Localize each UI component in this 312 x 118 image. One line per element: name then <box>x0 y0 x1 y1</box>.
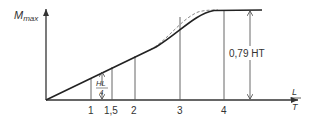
hl4-denominator: 4 <box>100 89 104 96</box>
tick-label-4: 4 <box>221 105 227 116</box>
diagram-canvas: Mmax 1 1,5 2 3 4 HL 4 0,79 HT L T <box>0 0 312 118</box>
tick-label-1-5: 1,5 <box>104 105 118 116</box>
plateau-value-label: 0,79 HT <box>229 48 265 59</box>
y-axis-label: Mmax <box>14 9 39 23</box>
x-axis-label-denominator: T <box>292 102 299 112</box>
x-axis-label-numerator: L <box>292 87 297 97</box>
tick-label-1: 1 <box>88 105 94 116</box>
hl4-numerator: HL <box>96 79 106 88</box>
tick-label-2: 2 <box>131 105 137 116</box>
labels-layer: Mmax 1 1,5 2 3 4 HL 4 0,79 HT L T <box>0 0 312 118</box>
tick-label-3: 3 <box>177 105 183 116</box>
